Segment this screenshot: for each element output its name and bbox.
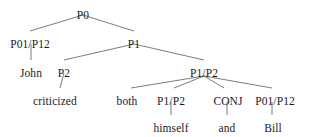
tree-node-himself: himself xyxy=(153,122,188,134)
tree-edge-p0-to-p1 xyxy=(83,15,134,31)
syntax-tree-diagram: P0P01/P12P1JohnP2P1/P2criticizedbothP1/P… xyxy=(0,0,309,137)
tree-node-conj: CONJ xyxy=(213,95,242,107)
tree-node-john: John xyxy=(20,67,42,79)
tree-node-p01p12_b: P01/P12 xyxy=(255,95,295,107)
tree-edge-p1-to-p1p2_a xyxy=(134,44,204,60)
tree-node-both: both xyxy=(117,95,138,107)
tree-node-p01p12_a: P01/P12 xyxy=(10,38,50,50)
tree-node-p1: P1 xyxy=(128,38,140,50)
tree-edges-layer xyxy=(0,0,309,137)
tree-node-p2_a: P2 xyxy=(58,67,70,79)
tree-node-criticized: criticized xyxy=(33,95,77,107)
tree-node-p0: P0 xyxy=(77,9,89,21)
tree-edge-p1-to-p2_a xyxy=(64,44,134,60)
tree-node-p1p2_a: P1/P2 xyxy=(190,67,218,79)
tree-edge-p0-to-p01p12_a xyxy=(30,15,83,31)
tree-node-and: and xyxy=(219,122,236,134)
tree-node-bill: Bill xyxy=(264,122,282,134)
tree-node-p1p2_b: P1/P2 xyxy=(157,95,185,107)
